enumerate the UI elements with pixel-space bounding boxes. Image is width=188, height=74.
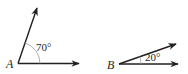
diagram-svg: 70° A 20° B bbox=[0, 0, 188, 74]
angle-b: 20° B bbox=[107, 44, 178, 72]
angle-a-vertex-label: A bbox=[5, 57, 14, 71]
angle-b-arc bbox=[140, 57, 141, 64]
angle-a-upper-ray bbox=[18, 8, 37, 64]
angle-b-vertex-label: B bbox=[107, 58, 115, 72]
angle-a-measure-label: 70° bbox=[36, 41, 51, 53]
angle-a: 70° A bbox=[5, 8, 79, 71]
angle-b-measure-label: 20° bbox=[145, 51, 160, 63]
angle-diagram: 70° A 20° B bbox=[0, 0, 188, 74]
